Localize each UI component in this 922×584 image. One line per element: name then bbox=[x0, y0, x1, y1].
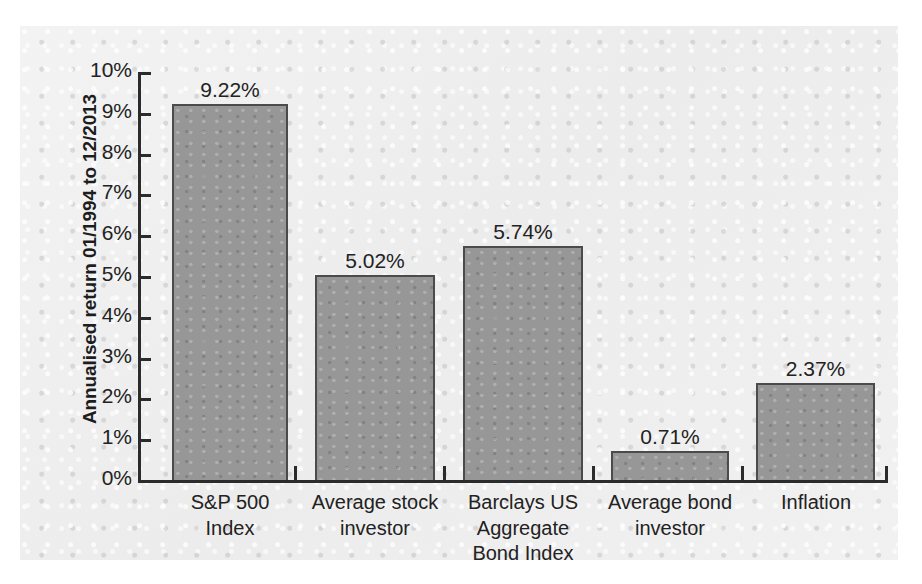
plot-area: 10% 9% 8% 7% 6% 5% 4% 3% bbox=[138, 72, 888, 483]
category-label-inflation: Inflation bbox=[740, 490, 892, 516]
y-axis-tick-3: 3% bbox=[141, 358, 151, 361]
y-axis-tick-label-1: 1% bbox=[102, 426, 132, 447]
y-axis-tick-9: 9% bbox=[141, 113, 151, 116]
x-axis-line bbox=[138, 480, 888, 483]
y-axis-tick-10: 10% bbox=[141, 72, 151, 75]
bar-average-stock-investor[interactable]: 5.02% bbox=[315, 275, 435, 480]
y-axis-tick-label-0: 0% bbox=[102, 467, 132, 488]
category-label-barclays-us-aggregate-bond-index: Barclays US Aggregate Bond Index bbox=[441, 490, 605, 567]
bar-value-label: 2.37% bbox=[786, 358, 846, 379]
y-axis-tick-2: 2% bbox=[141, 398, 151, 401]
y-axis-tick-label-3: 3% bbox=[102, 345, 132, 366]
y-axis-tick-0: 0% bbox=[141, 480, 151, 483]
bar-value-label: 9.22% bbox=[200, 79, 260, 100]
y-axis-tick-label-4: 4% bbox=[102, 304, 132, 325]
bar-value-label: 0.71% bbox=[640, 426, 700, 447]
bar-sp500[interactable]: 9.22% bbox=[172, 104, 288, 480]
y-axis-title: Annualised return 01/1994 to 12/2013 bbox=[79, 59, 101, 459]
x-axis-tick-3 bbox=[592, 466, 595, 480]
bar-average-bond-investor[interactable]: 0.71% bbox=[611, 451, 729, 480]
category-label-average-bond-investor: Average bond investor bbox=[585, 490, 755, 541]
bar-inflation[interactable]: 2.37% bbox=[756, 383, 875, 480]
category-label-sp500: S&P 500 Index bbox=[150, 490, 310, 541]
category-label-average-stock-investor: Average stock investor bbox=[290, 490, 460, 541]
bar-barclays-us-aggregate-bond-index[interactable]: 5.74% bbox=[463, 246, 583, 480]
y-axis-tick-label-5: 5% bbox=[102, 263, 132, 284]
y-axis-tick-5: 5% bbox=[141, 276, 151, 279]
x-axis-tick-5 bbox=[885, 466, 888, 480]
chart-screenshot: Annualised return 01/1994 to 12/2013 10%… bbox=[0, 0, 922, 584]
y-axis-tick-6: 6% bbox=[141, 235, 151, 238]
y-axis-tick-8: 8% bbox=[141, 154, 151, 157]
bar-value-label: 5.74% bbox=[493, 221, 553, 242]
y-axis-tick-label-8: 8% bbox=[102, 141, 132, 162]
y-axis-tick-label-6: 6% bbox=[102, 222, 132, 243]
bar-value-label: 5.02% bbox=[345, 250, 405, 271]
y-axis-tick-label-9: 9% bbox=[102, 100, 132, 121]
x-axis-tick-4 bbox=[741, 466, 744, 480]
y-axis-tick-1: 1% bbox=[141, 439, 151, 442]
y-axis-tick-label-7: 7% bbox=[102, 181, 132, 202]
y-axis-tick-label-2: 2% bbox=[102, 385, 132, 406]
x-axis-tick-2 bbox=[443, 466, 446, 480]
scanned-page-background: Annualised return 01/1994 to 12/2013 10%… bbox=[20, 26, 898, 560]
y-axis-tick-label-10: 10% bbox=[90, 59, 132, 80]
y-axis-tick-7: 7% bbox=[141, 194, 151, 197]
x-axis-tick-1 bbox=[294, 466, 297, 480]
y-axis-tick-4: 4% bbox=[141, 317, 151, 320]
